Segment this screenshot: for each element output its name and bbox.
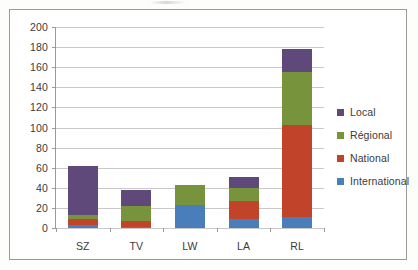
- y-axis-tick-label: 60: [36, 162, 48, 174]
- bar-segment-local[interactable]: [282, 49, 312, 72]
- y-axis-tick-label: 100: [30, 122, 48, 134]
- y-axis-tick-label: 0: [42, 222, 48, 234]
- bar-segment-international[interactable]: [121, 227, 151, 228]
- bar-segment-national[interactable]: [121, 221, 151, 227]
- y-axis-tick-label: 40: [36, 182, 48, 194]
- x-axis-tick: [56, 228, 57, 232]
- legend-label: Local: [350, 106, 376, 118]
- x-axis-label-rl: RL: [290, 240, 304, 252]
- x-axis-label-sz: SZ: [76, 240, 90, 252]
- bar-segment-regional[interactable]: [282, 72, 312, 124]
- x-axis-tick: [217, 228, 218, 232]
- x-axis-label-tv: TV: [129, 240, 143, 252]
- chart-frame: 020406080100120140160180200 SZTVLWLARL L…: [9, 9, 407, 260]
- x-axis-tick: [163, 228, 164, 232]
- bar-stack-tv[interactable]: [121, 27, 151, 228]
- legend-label: International: [350, 175, 409, 187]
- bar-segment-national[interactable]: [282, 125, 312, 217]
- x-axis-tick: [110, 228, 111, 232]
- legend-label: National: [350, 152, 389, 164]
- bar-segment-national[interactable]: [229, 201, 259, 219]
- bar-series: [56, 27, 324, 228]
- gridline: [56, 228, 324, 229]
- scan-artifact: [150, 1, 186, 4]
- y-axis-tick-label: 120: [30, 101, 48, 113]
- y-axis-tick-label: 160: [30, 61, 48, 73]
- legend-label: Régional: [350, 129, 392, 141]
- legend-swatch-icon: [337, 155, 344, 162]
- bar-segment-local[interactable]: [121, 190, 151, 206]
- legend-item-international[interactable]: International: [337, 175, 409, 187]
- plot-area: 020406080100120140160180200 SZTVLWLARL: [56, 27, 324, 228]
- bar-segment-regional[interactable]: [229, 188, 259, 201]
- chart-legend: LocalRégionalNationalInternational: [337, 106, 409, 187]
- bar-segment-national[interactable]: [68, 219, 98, 225]
- x-axis-label-lw: LW: [182, 240, 197, 252]
- legend-swatch-icon: [337, 109, 344, 116]
- bar-stack-la[interactable]: [229, 27, 259, 228]
- bar-segment-international[interactable]: [282, 217, 312, 228]
- x-axis-tick: [324, 228, 325, 232]
- legend-item-national[interactable]: National: [337, 152, 409, 164]
- bar-segment-international[interactable]: [175, 205, 205, 228]
- bar-segment-regional[interactable]: [175, 185, 205, 205]
- y-axis-tick-label: 140: [30, 81, 48, 93]
- bar-segment-international[interactable]: [68, 225, 98, 228]
- bar-stack-rl[interactable]: [282, 27, 312, 228]
- bar-stack-lw[interactable]: [175, 27, 205, 228]
- bar-stack-sz[interactable]: [68, 27, 98, 228]
- bar-segment-regional[interactable]: [68, 215, 98, 219]
- y-axis-tick-label: 200: [30, 21, 48, 33]
- legend-item-regional[interactable]: Régional: [337, 129, 409, 141]
- legend-item-local[interactable]: Local: [337, 106, 409, 118]
- legend-swatch-icon: [337, 178, 344, 185]
- bar-segment-international[interactable]: [229, 219, 259, 228]
- x-axis-tick: [270, 228, 271, 232]
- x-axis-label-la: LA: [237, 240, 250, 252]
- y-axis-tick-label: 180: [30, 41, 48, 53]
- legend-swatch-icon: [337, 132, 344, 139]
- y-axis-tick-label: 20: [36, 202, 48, 214]
- chart-screenshot: 020406080100120140160180200 SZTVLWLARL L…: [0, 0, 418, 270]
- bar-segment-local[interactable]: [68, 166, 98, 215]
- bar-segment-regional[interactable]: [121, 206, 151, 221]
- y-axis-tick-label: 80: [36, 142, 48, 154]
- bar-segment-local[interactable]: [229, 177, 259, 188]
